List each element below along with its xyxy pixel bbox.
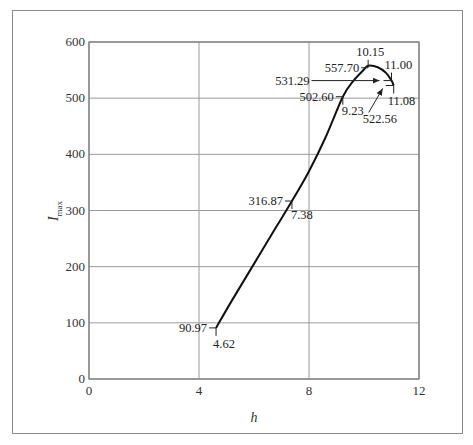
y-tick-label: 0	[79, 371, 86, 386]
series-line	[216, 66, 394, 328]
annotation-y-label: 90.97	[179, 321, 207, 335]
svg-text:Imax: Imax	[46, 200, 64, 222]
x-tick-label: 8	[306, 383, 313, 398]
y-tick-label: 500	[66, 90, 86, 105]
y-tick-label: 400	[66, 146, 86, 161]
y-tick-label: 600	[66, 34, 86, 49]
x-tick-label: 4	[196, 383, 203, 398]
annotations: 90.974.62316.877.38502.609.23557.7010.15…	[179, 45, 415, 351]
annotation-y-label: 502.60	[299, 90, 333, 104]
annotation-y-label: 557.70	[325, 61, 359, 75]
annotation-x-label: 4.62	[213, 337, 235, 351]
annotation-x-label: 11.00	[385, 58, 413, 72]
annotation-y-label: 531.29	[275, 74, 309, 88]
grid-lines	[89, 42, 419, 379]
annotation-x-label: 9.23	[342, 104, 364, 118]
x-axis-label: h	[251, 410, 258, 425]
annotation-x-label: 11.08	[388, 94, 416, 108]
annotation-x-label: 10.15	[356, 45, 384, 59]
y-axis-label: Imax	[46, 200, 64, 222]
x-tick-label: 12	[413, 383, 426, 398]
y-tick-label: 100	[66, 315, 86, 330]
annotation-y-label: 316.87	[249, 194, 283, 208]
axes: 010020030040050060004812	[66, 34, 426, 398]
annotation-arrow	[369, 88, 383, 112]
y-tick-label: 300	[66, 203, 86, 218]
x-tick-label: 0	[86, 383, 93, 398]
y-tick-label: 200	[66, 259, 86, 274]
annotation-y-label: 522.56	[363, 112, 397, 126]
data-curve	[216, 66, 394, 328]
chart: 010020030040050060004812 90.974.62316.87…	[0, 0, 473, 445]
annotation-x-label: 7.38	[291, 208, 313, 222]
